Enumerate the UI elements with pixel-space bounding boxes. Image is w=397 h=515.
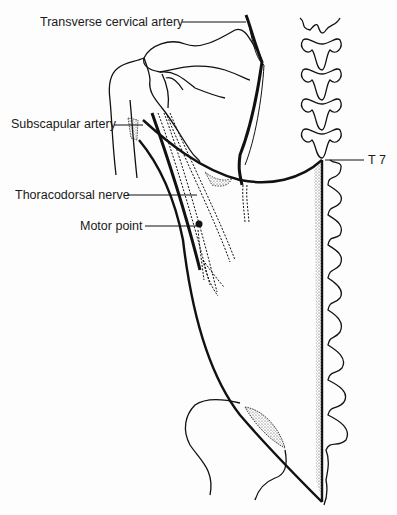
thoracodorsal-bundle [152, 113, 235, 296]
thoracolumbar-fascia [314, 160, 322, 500]
latissimus-dorsi-illustration [0, 0, 397, 515]
label-thoracodorsal-nerve: Thoracodorsal nerve [15, 188, 130, 202]
vertebral-column [300, 18, 347, 505]
latissimus-dorsi-outline [139, 120, 322, 502]
label-t7: T 7 [368, 153, 386, 167]
label-subscapular-artery: Subscapular artery [11, 117, 116, 131]
anatomy-diagram: Transverse cervical artery Subscapular a… [0, 0, 397, 515]
label-transverse-cervical-artery: Transverse cervical artery [40, 15, 183, 29]
leader-lines [114, 22, 364, 226]
scapula-outline [109, 29, 258, 178]
label-motor-point: Motor point [80, 219, 143, 233]
motor-point-dot [196, 221, 203, 228]
